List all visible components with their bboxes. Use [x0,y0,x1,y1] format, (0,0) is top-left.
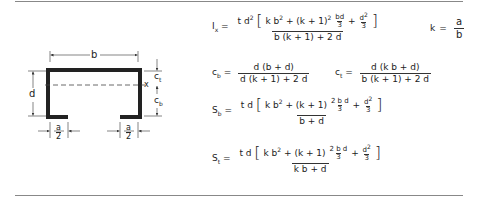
cb-subscript: b [159,100,163,107]
dim-label-cb: cb [154,96,163,107]
formula-cb: cb = d (b + d)d (k + 1) + 2 d [212,63,309,84]
k-label: k [430,23,435,33]
a-denominator: 2 [56,132,61,141]
a-numerator: a [56,124,61,132]
ct-fraction: d (k b + d)b (k + 1) + 2 d [360,63,431,84]
channel-shape [48,70,140,117]
sb-label: Sb = [212,105,232,115]
a-numerator: a [126,124,131,132]
ix-fraction: t d2 [ k b2 + (k + 1)2 bd3 + d23 ] b (k … [236,12,380,42]
ct-label: ct = [335,67,353,77]
k-eq: = [439,23,447,33]
formula-k: k= ab [430,17,464,40]
dim-label-a-half-left: a2 [55,124,62,141]
st-label: St = [212,153,231,163]
dim-label-b: b [91,50,97,60]
ix-label: Ix = [212,21,229,31]
axis-label-x: x [144,81,149,89]
a-denominator: 2 [126,132,131,141]
formula-sb: Sb = t d [ k b2 + (k + 1) 2 b d3 + d23 ]… [212,96,384,126]
sb-fraction: t d [ k b2 + (k + 1) 2 b d3 + d23 ] b + … [239,96,385,126]
st-fraction: t d [ k b2 + (k + 1) 2 b d3 + d23 ] k b … [237,144,383,174]
cb-fraction: d (b + d)d (k + 1) + 2 d [238,63,309,84]
ct-subscript: t [159,76,161,83]
formula-ix: Ix = t d2 [ k b2 + (k + 1)2 bd3 + d23 ] … [212,12,380,42]
formula-st: St = t d [ k b2 + (k + 1) 2 b d3 + d23 ]… [212,144,383,174]
dim-label-a-half-right: a2 [125,124,132,141]
k-fraction: ab [454,17,464,40]
dim-label-ct: ct [154,72,161,83]
cb-label: cb = [212,67,231,77]
dim-label-d: d [29,89,35,99]
formula-ct: ct = d (k b + d)b (k + 1) + 2 d [335,63,431,84]
